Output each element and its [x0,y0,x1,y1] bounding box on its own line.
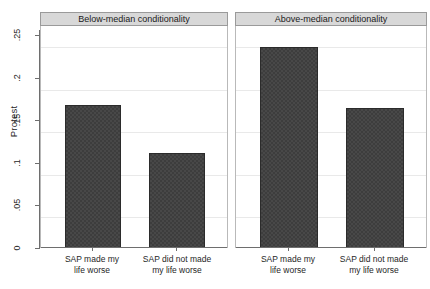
panel-below-median-plot [40,26,228,248]
panel-above-median-title: Above-median conditionality [235,12,427,26]
bar-chart: Protest 0 .05 .1 .15 .2 .25 Below-median… [0,0,430,289]
y-tick-0 [35,248,39,249]
bar-below-median-sap-made-worse [65,105,121,248]
x-tick-left-1 [92,248,93,251]
panel-below-median-title: Below-median conditionality [40,12,228,26]
y-tick-label-02: .2 [12,61,22,95]
bar-below-median-sap-not-made-worse [149,153,205,248]
gridline-02 [41,90,227,91]
y-tick-005 [35,205,39,206]
panel-above-median: Above-median conditionality [235,12,427,248]
x-label-below-median-1: SAP made my life worse [52,254,132,275]
x-tick-left-2 [176,248,177,251]
bar-above-median-sap-not-made-worse [346,108,404,248]
y-tick-015 [35,120,39,121]
x-label-above-median-1: SAP made my life worse [248,254,328,275]
y-tick-02 [35,78,39,79]
x-tick-right-2 [374,248,375,251]
y-tick-025 [35,35,39,36]
y-tick-label-005: .05 [12,188,22,222]
y-tick-label-0: 0 [12,231,22,265]
y-tick-label-015: .15 [12,103,22,137]
panel-above-median-plot [235,26,427,248]
y-tick-label-01: .1 [12,146,22,180]
y-tick-label-025: .25 [12,18,22,52]
x-label-below-median-2: SAP did not made my life worse [134,254,220,275]
gridline-025 [41,47,227,48]
y-tick-01 [35,163,39,164]
x-tick-right-1 [288,248,289,251]
panel-above-median-x-axis [236,247,426,248]
panel-below-median: Below-median conditionality [40,12,228,248]
bar-above-median-sap-made-worse [260,47,318,248]
x-label-above-median-2: SAP did not made my life worse [331,254,417,275]
panel-below-median-x-axis [41,247,227,248]
